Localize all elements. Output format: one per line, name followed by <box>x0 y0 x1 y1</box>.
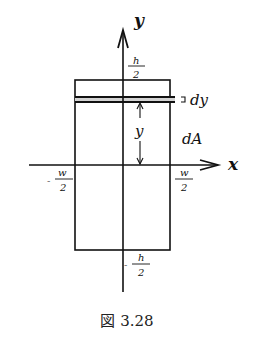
y-axis-label: y <box>133 10 145 30</box>
left-minus-sign: - <box>47 175 51 186</box>
bottom-h-denominator: 2 <box>137 267 144 278</box>
cross-section-diagram: y x h 2 dy y dA - w 2 w 2 - h 2 図 3.28 <box>0 0 255 339</box>
figure-caption: 図 3.28 <box>100 312 153 330</box>
top-h-denominator: 2 <box>132 69 139 80</box>
left-w-numerator: w <box>58 167 67 178</box>
x-axis-label: x <box>227 154 239 174</box>
left-w-denominator: 2 <box>59 182 66 193</box>
bottom-h-numerator: h <box>138 252 144 263</box>
strip-distance-label: y <box>134 122 144 140</box>
right-w-numerator: w <box>180 167 189 178</box>
strip-thickness-label: dy <box>190 91 209 109</box>
area-element-label: dA <box>182 130 203 148</box>
bottom-minus-sign: - <box>124 259 128 270</box>
dy-bracket-icon <box>181 97 185 102</box>
top-h-numerator: h <box>133 55 139 66</box>
right-w-denominator: 2 <box>180 182 187 193</box>
